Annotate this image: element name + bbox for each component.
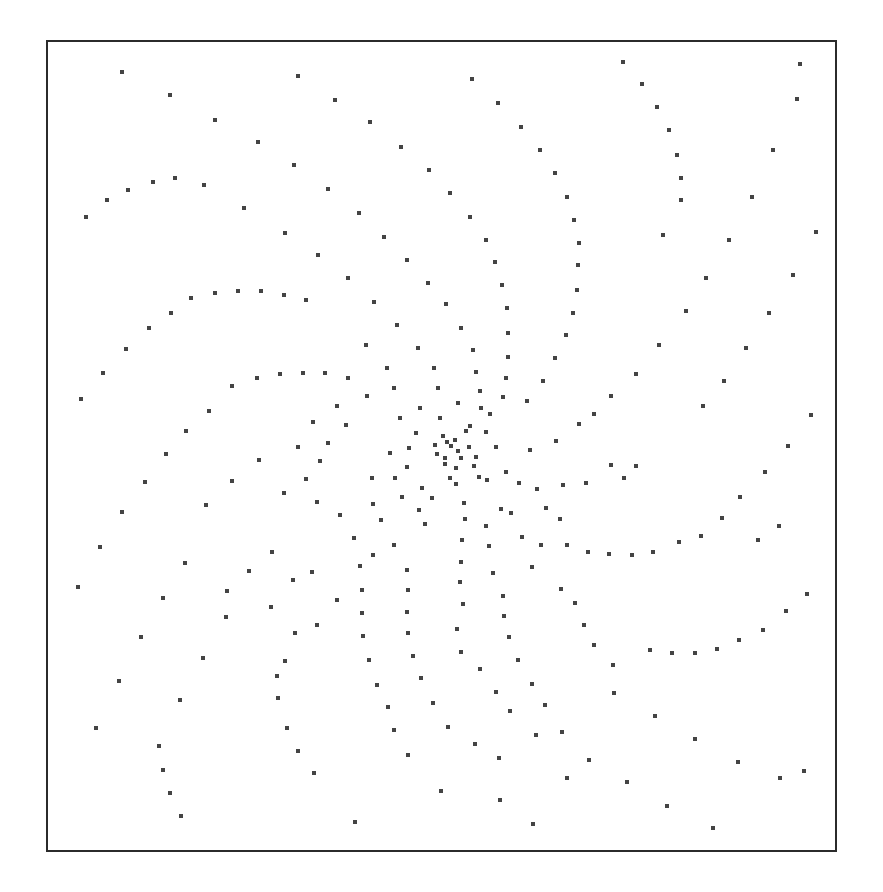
spiral-dot: [528, 448, 532, 452]
spiral-dot: [183, 561, 187, 565]
spiral-dot: [430, 496, 434, 500]
spiral-dot: [173, 176, 177, 180]
spiral-dot: [677, 540, 681, 544]
spiral-dot: [444, 302, 448, 306]
spiral-dot: [296, 74, 300, 78]
spiral-dot: [259, 289, 263, 293]
plot-frame: [46, 40, 837, 852]
spiral-dot: [168, 791, 172, 795]
spiral-dot: [161, 596, 165, 600]
spiral-dot: [157, 744, 161, 748]
spiral-dot: [335, 404, 339, 408]
spiral-dot: [161, 768, 165, 772]
spiral-dot: [534, 733, 538, 737]
spiral-dot: [675, 153, 679, 157]
spiral-dot: [449, 444, 453, 448]
spiral-dot: [640, 82, 644, 86]
spiral-dot: [189, 296, 193, 300]
spiral-dot: [201, 656, 205, 660]
spiral-dot: [316, 253, 320, 257]
spiral-dot: [357, 211, 361, 215]
spiral-dot: [468, 424, 472, 428]
spiral-dot: [247, 569, 251, 573]
spiral-dot: [558, 517, 562, 521]
spiral-dot: [553, 356, 557, 360]
spiral-dot: [488, 412, 492, 416]
spiral-dot: [433, 443, 437, 447]
spiral-dot: [471, 348, 475, 352]
spiral-dot: [458, 580, 462, 584]
spiral-dot: [406, 753, 410, 757]
spiral-dot: [388, 451, 392, 455]
spiral-dot: [499, 507, 503, 511]
spiral-dot: [693, 651, 697, 655]
spiral-dot: [665, 804, 669, 808]
spiral-dot: [352, 536, 356, 540]
spiral-dot: [414, 431, 418, 435]
spiral-dot: [577, 241, 581, 245]
spiral-dot: [126, 188, 130, 192]
spiral-dot: [560, 730, 564, 734]
spiral-dot: [582, 623, 586, 627]
spiral-dot: [419, 676, 423, 680]
spiral-dot: [371, 502, 375, 506]
spiral-dot: [256, 140, 260, 144]
spiral-dot: [484, 238, 488, 242]
spiral-dot: [516, 658, 520, 662]
spiral-dot: [360, 611, 364, 615]
spiral-dot: [405, 610, 409, 614]
spiral-dot: [504, 376, 508, 380]
spiral-dot: [802, 769, 806, 773]
spiral-dot: [494, 690, 498, 694]
spiral-dot: [459, 650, 463, 654]
spiral-dot: [491, 571, 495, 575]
spiral-dot: [461, 602, 465, 606]
spiral-dot: [76, 585, 80, 589]
spiral-dot: [120, 70, 124, 74]
spiral-dot: [559, 587, 563, 591]
spiral-dot: [323, 371, 327, 375]
spiral-dot: [416, 346, 420, 350]
spiral-dot: [432, 366, 436, 370]
spiral-dot: [371, 553, 375, 557]
spiral-dot: [561, 483, 565, 487]
spiral-dot: [230, 479, 234, 483]
spiral-dot: [443, 462, 447, 466]
spiral-dot: [625, 780, 629, 784]
spiral-dot: [147, 326, 151, 330]
spiral-dot: [426, 281, 430, 285]
spiral-dot: [715, 647, 719, 651]
spiral-dot: [541, 379, 545, 383]
spiral-dot: [727, 238, 731, 242]
spiral-dot: [485, 478, 489, 482]
spiral-dot: [301, 371, 305, 375]
spiral-dot: [326, 441, 330, 445]
spiral-dot: [693, 737, 697, 741]
spiral-dot: [454, 466, 458, 470]
spiral-dot: [609, 463, 613, 467]
spiral-dot: [607, 552, 611, 556]
spiral-dot: [143, 480, 147, 484]
spiral-dot: [679, 198, 683, 202]
spiral-dot: [423, 522, 427, 526]
spiral-dot: [462, 501, 466, 505]
spiral-dot: [346, 376, 350, 380]
spiral-dot: [400, 495, 404, 499]
spiral-dot: [798, 62, 802, 66]
spiral-dot: [386, 705, 390, 709]
spiral-dot: [120, 510, 124, 514]
spiral-dot: [473, 742, 477, 746]
spiral-dot: [459, 560, 463, 564]
spiral-dot: [304, 477, 308, 481]
spiral-dot: [417, 508, 421, 512]
spiral-dot: [572, 218, 576, 222]
spiral-dot: [565, 776, 569, 780]
spiral-dot: [385, 366, 389, 370]
spiral-dot: [94, 726, 98, 730]
spiral-dot: [283, 231, 287, 235]
spiral-dot: [474, 370, 478, 374]
spiral-dot: [406, 588, 410, 592]
spiral-dot: [315, 500, 319, 504]
spiral-dot: [411, 654, 415, 658]
spiral-dot: [538, 148, 542, 152]
